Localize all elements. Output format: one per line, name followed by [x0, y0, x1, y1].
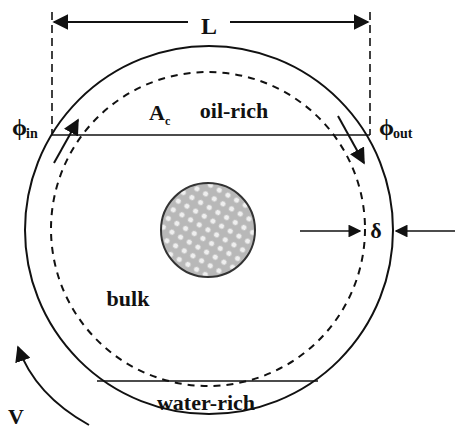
film-thickness-dimension: δ [300, 218, 455, 243]
cylinder-flow-diagram: L ϕ in ϕ out A c oil-rich bulk water-ric… [0, 0, 462, 442]
water-rich-label: water-rich [157, 390, 255, 415]
oil-rich-label: oil-rich [200, 98, 268, 123]
svg-text:ϕ: ϕ [379, 114, 394, 140]
svg-text:in: in [26, 126, 38, 141]
phi-out-label: ϕ out [379, 114, 413, 141]
svg-text:out: out [393, 126, 413, 141]
svg-text:A: A [149, 100, 165, 125]
length-label: L [201, 13, 217, 39]
bulk-label: bulk [107, 286, 151, 311]
svg-text:ϕ: ϕ [12, 114, 27, 140]
area-label: A c [149, 100, 171, 128]
delta-label: δ [370, 218, 381, 243]
velocity-label: V [8, 404, 24, 429]
svg-text:c: c [165, 114, 171, 128]
phi-in-label: ϕ in [12, 114, 38, 141]
inner-particle [161, 183, 255, 277]
outlet-flow-arrow [338, 116, 364, 163]
